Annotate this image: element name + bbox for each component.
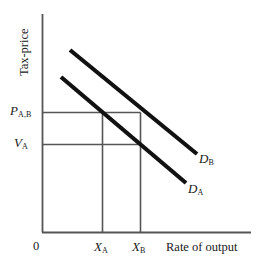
y-tick-subscript-v: A [22,142,28,151]
origin-label: 0 [33,240,39,253]
x-tick-subscript-xa: A [102,246,108,255]
curve-subscript-db: B [208,158,214,167]
x-tick-subscript-xb: B [140,246,146,255]
y-tick-label-p: PA,B [10,104,32,117]
y-tick-subscript-p: A,B [18,110,32,119]
x-tick-label-xa: XA [94,240,108,253]
y-tick-label-v: VA [14,136,28,149]
x-axis-title: Rate of output [166,241,238,254]
x-tick-label-xb: XB [132,240,145,253]
diagram-canvas [0,0,257,265]
curve-label-db: DB [199,152,214,165]
y-axis-title: Tax-price [18,12,31,92]
curve-subscript-da: A [197,188,203,197]
y-tick-symbol-p: P [10,103,18,118]
x-tick-symbol-xa: X [94,239,102,254]
curve-symbol-da: D [188,181,197,196]
axis-group [42,14,251,233]
demand-curve-group [61,50,197,183]
y-tick-symbol-v: V [14,135,22,150]
curve-symbol-db: D [199,151,208,166]
economics-diagram: Tax-price PA,B VA 0 XA XB Rate of output… [0,0,257,265]
x-tick-symbol-xb: X [132,239,140,254]
curve-label-da: DA [188,182,203,195]
